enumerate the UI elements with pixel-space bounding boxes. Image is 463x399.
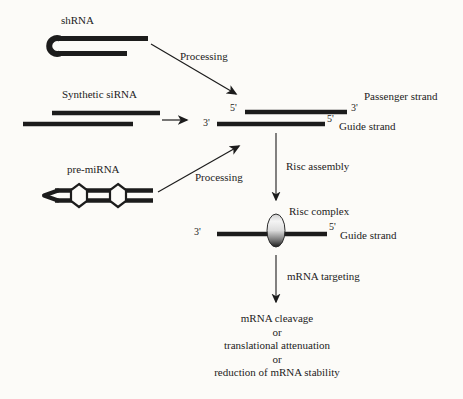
duplex-top-5prime-label: 5'	[230, 102, 237, 114]
risc-complex-structure	[217, 214, 327, 247]
mrna-targeting-label: mRNA targeting	[287, 270, 360, 282]
processing-top-label: Processing	[180, 50, 228, 62]
duplex-top-3prime-label: 3'	[351, 102, 358, 114]
pre-mirna-bulge-2	[110, 184, 126, 207]
passenger-strand-label: Passenger strand	[364, 90, 438, 102]
processing-arrow-bottom	[158, 146, 239, 192]
risc-assembly-label: Risc assembly	[286, 160, 349, 172]
outcome-reduction-mrna-stability: reduction of mRNA stability	[152, 366, 402, 379]
synthetic-sirna-structure	[23, 113, 160, 124]
pre-mirna-label: pre-miRNA	[67, 163, 120, 175]
outcome-translational-attenuation: translational attenuation	[152, 339, 402, 352]
risc-5prime-label: 5'	[329, 221, 336, 233]
outcome-or-1: or	[152, 326, 402, 339]
risc-complex-ellipse	[267, 214, 285, 247]
outcomes-text-block: mRNA cleavage or translational attenuati…	[152, 312, 402, 380]
risc-3prime-label: 3'	[194, 226, 201, 238]
pre-mirna-structure	[44, 184, 153, 207]
duplex-bottom-5prime-label: 5'	[327, 113, 334, 125]
outcome-mrna-cleavage: mRNA cleavage	[152, 312, 402, 325]
pre-mirna-bulge-1	[71, 184, 87, 207]
duplex-guide-strand-label: Guide strand	[339, 120, 396, 132]
risc-complex-label: Risc complex	[289, 205, 349, 217]
shrna-label: shRNA	[61, 14, 94, 26]
shrna-loop	[49, 38, 60, 54]
duplex-bottom-3prime-label: 3'	[203, 117, 210, 129]
outcome-or-2: or	[152, 353, 402, 366]
processing-bottom-label: Processing	[195, 171, 243, 183]
rnai-pathway-diagram: shRNA Processing Synthetic siRNA 5' 3' P…	[0, 0, 463, 399]
synthetic-sirna-label: Synthetic siRNA	[62, 88, 137, 100]
risc-guide-strand-label: Guide strand	[340, 229, 397, 241]
shrna-structure	[49, 38, 148, 54]
